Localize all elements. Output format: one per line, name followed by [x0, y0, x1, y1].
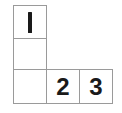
cell-grid: 1 2 3	[0, 0, 122, 113]
grid-cell-r1c0[interactable]	[13, 38, 47, 70]
grid-cell-r2c1[interactable]: 2	[46, 69, 80, 104]
grid-cell-r2c1-label: 2	[56, 75, 69, 99]
grid-cell-r0c0[interactable]: 1	[13, 5, 47, 39]
grid-cell-r2c0[interactable]	[13, 69, 47, 104]
grid-cell-r2c2[interactable]: 3	[79, 69, 113, 104]
digit-one-bar-glyph	[28, 12, 32, 33]
grid-cell-r2c2-label: 3	[89, 75, 102, 99]
